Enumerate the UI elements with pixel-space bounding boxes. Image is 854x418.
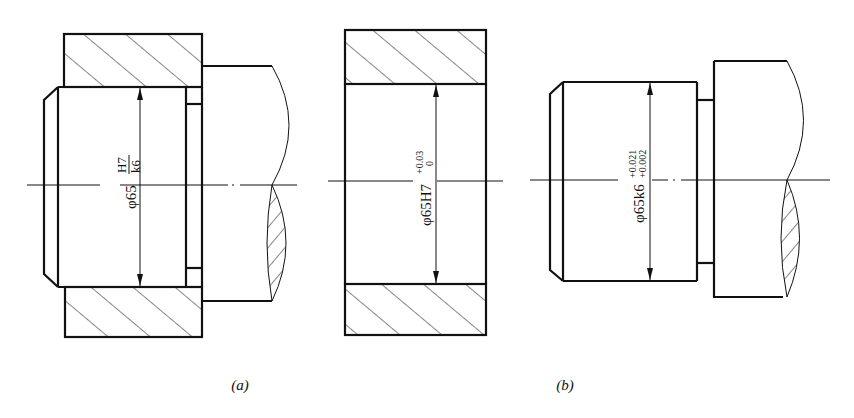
hub-top-section — [64, 34, 202, 87]
dim-prefix: φ65 — [123, 185, 139, 209]
shaft-lower-deviation: +0.002 — [637, 150, 648, 178]
shaft-dimension-label: φ65k6 +0.021 +0.002 — [627, 150, 648, 223]
hub-bottom-section — [65, 287, 202, 337]
caption-a: (a) — [231, 377, 249, 394]
hole-lower-deviation: 0 — [424, 161, 435, 166]
fit-denominator: k6 — [128, 160, 143, 174]
panel-a-assembly: φ65 H7 k6 — [27, 34, 305, 337]
hole-bottom-section — [345, 284, 486, 335]
hole-dim-prefix: φ65H7 — [418, 184, 434, 226]
fit-dimension-label-a: φ65 H7 k6 — [114, 155, 143, 209]
fit-numerator: H7 — [114, 157, 129, 173]
caption-b: (b) — [556, 377, 574, 394]
dimension-line-hole — [433, 85, 439, 283]
hole-dimension-label: φ65H7 +0.03 0 — [414, 151, 435, 226]
dimension-line-shaft — [647, 83, 653, 280]
shaft-dim-prefix: φ65k6 — [631, 184, 647, 223]
panel-b-hole: φ65H7 +0.03 0 — [328, 30, 503, 335]
drawing-canvas: φ65 H7 k6 φ65H7 +0.03 0 — [0, 0, 854, 418]
hole-top-section — [345, 30, 486, 84]
panel-b-shaft: φ65k6 +0.021 +0.002 — [530, 61, 830, 300]
